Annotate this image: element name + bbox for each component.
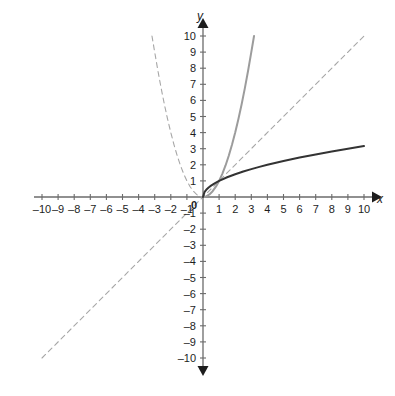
y-tick-label: –10 xyxy=(178,352,196,364)
y-tick-label: –3 xyxy=(184,239,196,251)
y-tick-label: –2 xyxy=(184,223,196,235)
x-tick-label: –4 xyxy=(132,203,144,215)
x-tick-label: –9 xyxy=(52,203,64,215)
y-tick-label: 6 xyxy=(190,94,196,106)
x-tick-label: 3 xyxy=(248,203,254,215)
x-tick-label: 1 xyxy=(216,203,222,215)
x-tick-label: –5 xyxy=(116,203,128,215)
y-tick-label: –7 xyxy=(184,304,196,316)
y-tick-label: –6 xyxy=(184,288,196,300)
y-tick-label: 5 xyxy=(190,111,196,123)
curve-y-x xyxy=(203,146,364,197)
curve-y-x xyxy=(203,36,254,197)
y-tick-label: –9 xyxy=(184,336,196,348)
x-tick-label: 2 xyxy=(232,203,238,215)
graph-figure: –10–9–8–7–6–5–4–3–2–11234567891010987654… xyxy=(0,0,395,396)
y-axis-label: y xyxy=(196,9,204,23)
origin-label: 0 xyxy=(191,199,197,211)
x-tick-label: 6 xyxy=(297,203,303,215)
x-tick-label: –6 xyxy=(100,203,112,215)
y-axis-arrowhead-down xyxy=(198,366,209,376)
y-tick-label: 1 xyxy=(190,175,196,187)
y-tick-label: 8 xyxy=(190,62,196,74)
y-tick-label: 3 xyxy=(190,143,196,155)
y-tick-label: 2 xyxy=(190,159,196,171)
x-tick-label: 10 xyxy=(358,203,370,215)
x-tick-label: 9 xyxy=(345,203,351,215)
x-tick-label: 5 xyxy=(280,203,286,215)
coordinate-plane-svg: –10–9–8–7–6–5–4–3–2–11234567891010987654… xyxy=(0,0,395,396)
x-axis-label: x xyxy=(376,192,384,206)
x-tick-label: –3 xyxy=(149,203,161,215)
x-tick-label: 8 xyxy=(329,203,335,215)
x-tick-label: –8 xyxy=(68,203,80,215)
y-tick-label: –5 xyxy=(184,272,196,284)
y-tick-label: 4 xyxy=(190,127,196,139)
y-tick-label: 7 xyxy=(190,78,196,90)
y-tick-label: 9 xyxy=(190,46,196,58)
x-tick-label: –10 xyxy=(33,203,51,215)
x-tick-label: –2 xyxy=(165,203,177,215)
y-tick-label: –4 xyxy=(184,255,196,267)
x-tick-label: 4 xyxy=(264,203,270,215)
y-tick-label: 10 xyxy=(184,30,196,42)
axes-group xyxy=(34,18,382,376)
x-tick-label: –7 xyxy=(84,203,96,215)
x-tick-label: 7 xyxy=(313,203,319,215)
y-tick-label: –8 xyxy=(184,320,196,332)
